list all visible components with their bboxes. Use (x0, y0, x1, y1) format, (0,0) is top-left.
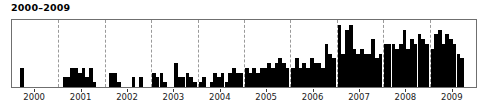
bar (117, 82, 121, 87)
bar (379, 54, 383, 88)
x-tick-label-2004: 2004 (209, 92, 231, 103)
frequency-histogram-widget: 2000–2009 200020012002200320042005200620… (0, 0, 490, 106)
x-tick-label-2006: 2006 (302, 92, 324, 103)
x-tick-label-2001: 2001 (70, 92, 92, 103)
bar (460, 58, 464, 87)
bar (239, 73, 243, 87)
bar (286, 68, 290, 87)
bars-layer (12, 20, 476, 87)
bar (20, 68, 24, 87)
bar (193, 82, 197, 87)
x-tick-label-2005: 2005 (255, 92, 277, 103)
x-tick-label-2003: 2003 (163, 92, 185, 103)
x-tick-label-2000: 2000 (23, 92, 45, 103)
plot-area (11, 19, 477, 88)
x-tick-label-2007: 2007 (348, 92, 370, 103)
bar (93, 82, 97, 87)
bar (132, 77, 136, 87)
bar (332, 58, 336, 87)
x-tick-label-2009: 2009 (441, 92, 463, 103)
bar (139, 77, 143, 87)
bar (163, 82, 167, 87)
x-axis: 2000200120022003200420052006200720082009 (11, 89, 477, 103)
bar (425, 44, 429, 87)
x-tick-label-2008: 2008 (395, 92, 417, 103)
chart-title: 2000–2009 (11, 2, 70, 14)
x-tick-label-2002: 2002 (116, 92, 138, 103)
bar (202, 77, 206, 87)
